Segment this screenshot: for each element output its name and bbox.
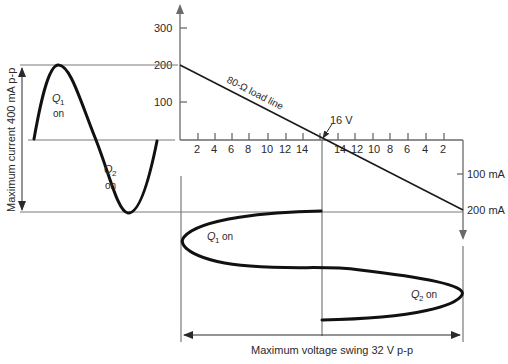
right-tick-200ma: 200 mA: [467, 204, 506, 216]
x-tick-4: 4: [211, 143, 217, 155]
q-point-label: 16 V: [330, 114, 353, 126]
arrow-down-icon: [459, 230, 467, 240]
arrow-up-icon: [176, 4, 184, 14]
x-tick-r8: 8: [387, 143, 393, 155]
y-tick-300: 300: [154, 22, 172, 34]
svg-text:on: on: [426, 289, 437, 300]
x-tick-10: 10: [261, 143, 273, 155]
y-tick-100: 100: [154, 96, 172, 108]
x-tick-2: 2: [194, 143, 200, 155]
x-tick-r10: 10: [368, 143, 380, 155]
x-tick-12: 12: [279, 143, 291, 155]
x-tick-14: 14: [296, 143, 308, 155]
current-q1-label: Q 1 on: [52, 92, 65, 119]
x-tick-r6: 6: [404, 143, 410, 155]
svg-text:on: on: [53, 108, 64, 119]
left-y-axis: 300 200 100: [154, 4, 187, 140]
x-tick-r2: 2: [440, 143, 446, 155]
svg-text:2: 2: [419, 294, 424, 303]
current-waveform: [34, 65, 157, 213]
svg-text:on: on: [105, 180, 116, 191]
q-point-arrow-icon: [323, 124, 332, 138]
right-tick-100ma: 100 mA: [467, 168, 506, 180]
voltage-q2-label: Q 2 on: [411, 288, 437, 303]
right-current-axis: 100 mA 200 mA: [457, 140, 506, 240]
voltage-q1-label: Q 1 on: [207, 230, 233, 245]
voltage-span-label: Maximum voltage swing 32 V p-p: [251, 344, 413, 356]
svg-text:1: 1: [60, 98, 65, 107]
current-span-label: Maximum current 400 mA p-p: [5, 68, 17, 212]
svg-text:1: 1: [215, 236, 220, 245]
x-tick-8: 8: [245, 143, 251, 155]
x-tick-r4: 4: [422, 143, 428, 155]
svg-text:on: on: [222, 231, 233, 242]
load-line-diagram: 300 200 100 2 4 6 8 10 12 14 14 12 10 8 …: [0, 0, 508, 364]
x-tick-6: 6: [228, 143, 234, 155]
svg-text:2: 2: [112, 169, 117, 178]
